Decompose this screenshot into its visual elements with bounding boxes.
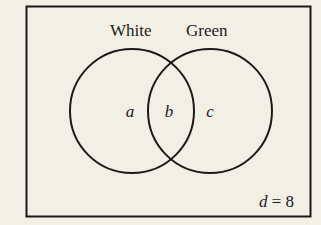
region-green-only: c (206, 103, 214, 120)
outside-value: 8 (286, 192, 295, 211)
outside-variable: d (259, 192, 268, 211)
region-both: b (165, 103, 174, 120)
outside-equals: = (272, 192, 282, 211)
white-set-label: White (110, 22, 152, 39)
venn-diagram: White Green a b c d = 8 (0, 0, 321, 225)
green-set-label: Green (186, 22, 228, 39)
outside-region-label: d = 8 (259, 193, 294, 210)
region-white-only: a (126, 103, 135, 120)
